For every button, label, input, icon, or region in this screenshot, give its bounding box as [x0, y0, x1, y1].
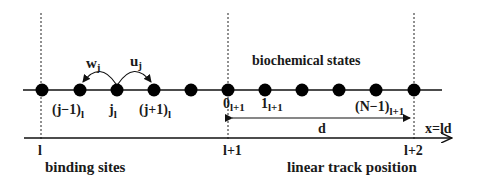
linear-track-position-label: linear track position	[287, 159, 417, 175]
state-label: (N−1)l+1	[355, 99, 404, 117]
state-label: (j−1)l	[52, 102, 84, 120]
binding-sites-label: binding sites	[45, 159, 126, 175]
site-label-l: l	[38, 143, 42, 158]
diagram-svg: wj uj biochemical states (j−1)l jl (j+1)…	[0, 0, 477, 186]
forward-rate-label: uj	[130, 53, 142, 71]
state-dot	[296, 84, 309, 97]
state-dot	[36, 84, 49, 97]
molecular-motor-diagram: wj uj biochemical states (j−1)l jl (j+1)…	[0, 0, 477, 186]
state-label: (j+1)l	[139, 102, 171, 120]
state-dot	[74, 84, 87, 97]
state-label: jl	[108, 102, 117, 120]
state-label: 0l+1	[223, 96, 245, 113]
state-dot	[408, 84, 421, 97]
state-dot	[185, 84, 198, 97]
forward-rate-arc	[118, 71, 151, 84]
state-dot	[222, 84, 235, 97]
state-label: 1l+1	[261, 96, 283, 113]
state-dot	[333, 84, 346, 97]
site-label-l-plus-2: l+2	[404, 143, 423, 158]
state-dot	[148, 84, 161, 97]
biochemical-states-label: biochemical states	[252, 53, 361, 68]
site-label-l-plus-1: l+1	[223, 143, 242, 158]
distance-label: d	[318, 121, 326, 136]
state-dot	[111, 84, 124, 97]
state-dot	[259, 84, 272, 97]
backward-rate-label: wj	[86, 55, 101, 73]
position-formula-label: x=ld	[425, 121, 452, 136]
backward-rate-arc	[83, 71, 116, 84]
state-dot	[370, 84, 383, 97]
